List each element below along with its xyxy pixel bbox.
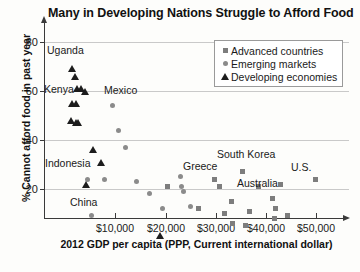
gridline-20 [44,189,349,190]
data-point-circle [160,206,165,211]
data-point-triangle [89,146,97,153]
data-point-triangle [82,181,90,188]
point-label: Uganda [47,44,84,56]
point-label: Greece [183,160,217,172]
data-point-circle [123,145,128,150]
data-point-square [270,196,275,201]
chart-title: Many in Developing Nations Struggle to A… [48,6,358,20]
y-axis-arrow-icon [41,16,47,23]
data-point-circle [134,179,139,184]
gridline-40 [44,140,349,141]
legend-item-developing-economies[interactable]: Developing economies [219,70,337,83]
point-label: South Korea [217,148,275,160]
circle-marker-icon [219,61,231,66]
data-point-square [313,177,318,182]
x-tick-mark [166,213,167,219]
y-tick-mark [40,42,45,43]
data-point-circle [147,191,152,196]
data-point-square [165,184,170,189]
legend-item-emerging-markets[interactable]: Emerging markets [219,57,337,70]
x-axis-line [44,218,344,219]
point-label: Australia [237,177,278,189]
data-point-square [240,169,245,174]
data-point-square [243,223,248,228]
point-label: Indonesia [45,157,91,169]
data-point-square [229,199,234,204]
y-tick-mark [40,140,45,141]
data-point-triangle [68,65,76,72]
data-point-triangle [156,232,164,239]
data-point-square [278,182,283,187]
y-tick-mark [40,189,45,190]
legend-label: Developing economies [231,71,337,83]
chart-legend: Advanced countries Emerging markets Deve… [214,40,343,87]
square-marker-icon [219,48,231,53]
x-axis-title: 2012 GDP per capita (PPP, Current intern… [44,238,349,250]
data-point-square [196,206,201,211]
data-point-triangle [72,100,80,107]
x-tick-mark [115,213,116,219]
data-point-triangle [71,73,79,80]
data-point-circle [188,204,193,209]
data-point-circle [110,103,115,108]
x-tick-label-50000: $50,000 [286,222,346,234]
gridline-60 [44,91,349,92]
data-point-square [217,184,222,189]
data-point-triangle [97,159,105,166]
data-point-square [222,211,227,216]
data-point-circle [116,128,121,133]
triangle-marker-icon [219,73,231,80]
legend-item-advanced-countries[interactable]: Advanced countries [219,44,337,57]
chart-container: Many in Developing Nations Struggle to A… [0,0,360,272]
data-point-square [273,206,278,211]
data-point-triangle [74,119,82,126]
point-label: U.S. [291,161,311,173]
point-label: China [70,196,97,208]
data-point-square [247,209,252,214]
data-point-circle [102,177,107,182]
data-point-square [212,177,217,182]
x-tick-mark [316,213,317,219]
point-label: Mexico [104,84,137,96]
data-point-square [230,221,235,226]
data-point-triangle [81,88,89,95]
x-tick-mark [266,213,267,219]
data-point-square [285,213,290,218]
y-axis-title: % Cannot afford food in past year [20,28,32,208]
data-point-circle [178,174,183,179]
x-tick-mark [216,213,217,219]
data-point-square [272,216,277,221]
point-label: Kenya [44,83,74,95]
data-point-circle [181,189,186,194]
x-axis-arrow-icon [343,215,350,221]
legend-label: Emerging markets [231,58,316,70]
data-point-circle [89,213,94,218]
legend-label: Advanced countries [231,45,323,57]
